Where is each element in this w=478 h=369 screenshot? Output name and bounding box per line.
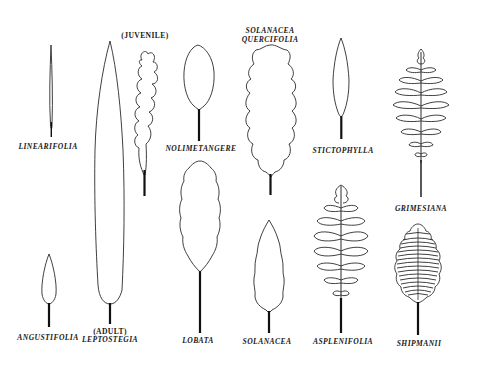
leaf-drawings — [0, 0, 478, 369]
label-leptostegia: LEPTOSTEGIA — [82, 335, 138, 344]
leptostegia-juvenile-leaf-drawing — [135, 52, 158, 196]
linearifolia-leaf-drawing — [50, 45, 53, 137]
solanacea-quercifolia-leaf-drawing — [246, 45, 296, 195]
shipmanii-leaf-drawing — [395, 224, 442, 335]
label-juvenile: (JUVENILE) — [121, 31, 168, 40]
label-solanacea: SOLANACEA — [243, 337, 292, 346]
label-nolimetangere: NOLIMETANGERE — [165, 144, 236, 153]
lobata-leaf-drawing — [180, 161, 221, 333]
label-angustifolia: ANGUSTIFOLIA — [17, 333, 78, 342]
angustifolia-leaf-drawing — [42, 254, 56, 327]
leptostegia-adult-leaf-drawing — [95, 41, 124, 324]
label-linearifolia: LINEARIFOLIA — [18, 142, 77, 151]
label-stictophylla: STICTOPHYLLA — [312, 146, 373, 155]
grimesiana-leaf-drawing — [393, 49, 449, 197]
label-shipmanii: SHIPMANII — [397, 339, 442, 348]
solanacea-leaf-drawing — [254, 220, 284, 333]
nolimetangere-leaf-drawing — [184, 45, 214, 141]
leaf-forms-diagram: LINEARIFOLIA ANGUSTIFOLIA (JUVENILE) (AD… — [0, 0, 478, 369]
label-lobata: LOBATA — [182, 336, 214, 345]
asplenifolia-leaf-drawing — [314, 185, 368, 333]
label-solanacea-quercifolia-line1: SOLANACEA — [246, 26, 295, 35]
label-asplenifolia: ASPLENIFOLIA — [313, 337, 373, 346]
label-solanacea-quercifolia-line2: QUERCIFOLIA — [242, 35, 299, 44]
stictophylla-leaf-drawing — [333, 38, 349, 139]
label-grimesiana: GRIMESIANA — [395, 204, 447, 213]
